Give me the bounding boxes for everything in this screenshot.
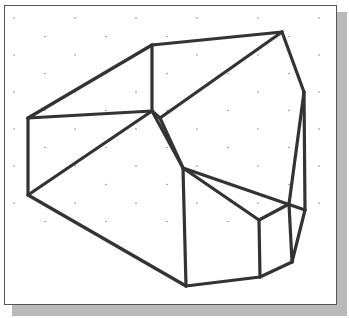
- grid-dot: [44, 73, 46, 75]
- edge-NF: [289, 204, 292, 262]
- grid-dot: [166, 36, 168, 38]
- edge-ND: [289, 92, 304, 204]
- grid-dot: [44, 221, 46, 223]
- grid-dot: [13, 17, 15, 19]
- grid-dot: [135, 202, 137, 204]
- edge-LM: [183, 168, 259, 220]
- grid-dot: [105, 36, 107, 38]
- grid-dot: [227, 221, 229, 223]
- grid-dot: [288, 36, 290, 38]
- grid-dot: [13, 54, 15, 56]
- grid-dot: [166, 73, 168, 75]
- grid-dot: [13, 128, 15, 130]
- grid-dot: [135, 17, 137, 19]
- edge-EF: [292, 210, 305, 262]
- grid-dot: [257, 91, 259, 93]
- grid-dot: [166, 184, 168, 186]
- edge-KL: [160, 118, 183, 168]
- edge-AJ: [28, 111, 152, 118]
- grid-dot: [227, 110, 229, 112]
- grid-dot: [196, 128, 198, 130]
- grid-dot: [257, 128, 259, 130]
- edge-DE: [304, 92, 305, 210]
- grid-dot: [318, 54, 320, 56]
- grid-dot: [105, 110, 107, 112]
- grid-dot: [166, 221, 168, 223]
- edge-LE: [183, 168, 305, 210]
- edge-KC: [160, 32, 282, 118]
- grid-dot: [257, 54, 259, 56]
- grid-dot: [318, 91, 320, 93]
- grid-dot: [318, 165, 320, 167]
- grid-dot: [135, 91, 137, 93]
- grid-dot: [196, 165, 198, 167]
- edge-FG: [260, 262, 292, 277]
- grid-dot: [318, 17, 320, 19]
- grid-dot: [288, 110, 290, 112]
- grid-dot: [288, 73, 290, 75]
- edge-CD: [282, 32, 304, 92]
- edge-BC: [152, 32, 282, 45]
- grid-dot: [135, 165, 137, 167]
- grid-dot: [105, 221, 107, 223]
- grid-dots: [13, 17, 320, 222]
- grid-dot: [257, 165, 259, 167]
- edge-LH: [183, 168, 186, 286]
- grid-dot: [74, 202, 76, 204]
- grid-dot: [74, 17, 76, 19]
- grid-dot: [196, 17, 198, 19]
- edge-GH: [186, 277, 260, 286]
- grid-dot: [74, 128, 76, 130]
- edge-HI: [28, 195, 186, 286]
- grid-dot: [74, 54, 76, 56]
- grid-dot: [227, 147, 229, 149]
- wireframe-edges: [28, 32, 305, 286]
- grid-dot: [166, 147, 168, 149]
- grid-dot: [196, 54, 198, 56]
- grid-dot: [13, 91, 15, 93]
- grid-dot: [105, 184, 107, 186]
- edge-MG: [259, 220, 260, 277]
- grid-dot: [135, 128, 137, 130]
- edge-AB: [28, 45, 152, 118]
- grid-dot: [318, 202, 320, 204]
- grid-dot: [44, 36, 46, 38]
- grid-dot: [196, 202, 198, 204]
- grid-dot: [288, 147, 290, 149]
- grid-dot: [44, 147, 46, 149]
- grid-dot: [13, 165, 15, 167]
- grid-dot: [257, 202, 259, 204]
- edge-MN: [259, 204, 289, 220]
- grid-dot: [227, 73, 229, 75]
- wireframe-drawing: [0, 0, 349, 318]
- edge-JI: [28, 111, 152, 195]
- grid-dot: [257, 17, 259, 19]
- grid-dot: [318, 128, 320, 130]
- grid-dot: [13, 202, 15, 204]
- grid-dot: [105, 147, 107, 149]
- grid-dot: [288, 184, 290, 186]
